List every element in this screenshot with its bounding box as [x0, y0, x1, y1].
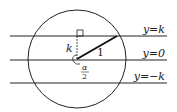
label-radius: 1 — [97, 46, 104, 59]
label-line-y-0: y=0 — [142, 47, 165, 60]
diagram-canvas: k 1 α 2 y=k y=0 y=−k — [0, 0, 177, 112]
label-k: k — [66, 42, 73, 55]
label-line-y-neg-k: y=−k — [133, 70, 166, 83]
right-angle-marker — [77, 30, 83, 36]
label-two: 2 — [82, 72, 87, 81]
label-alpha: α — [82, 63, 88, 72]
label-line-y-k: y=k — [142, 23, 165, 36]
